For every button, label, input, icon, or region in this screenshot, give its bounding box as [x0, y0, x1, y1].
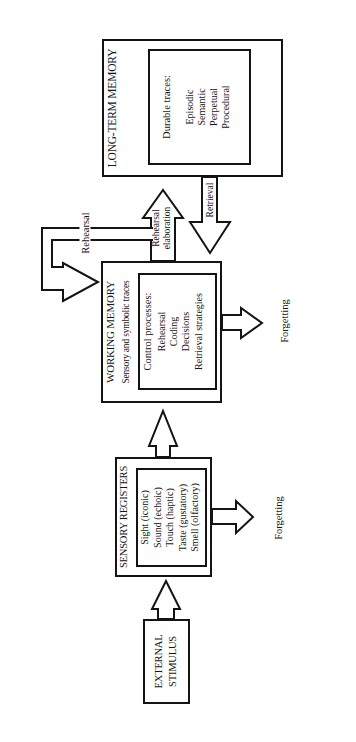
- list-item: Decisions: [180, 275, 192, 388]
- sensory-registers-title: SENSORY REGISTERS: [118, 457, 129, 577]
- working-memory-title: WORKING MEMORY: [104, 261, 116, 403]
- list-item: Perpetual: [208, 51, 220, 163]
- list-item: Semantic: [196, 51, 208, 163]
- rehearsal-elaboration-label-line2: elaboration: [162, 207, 173, 250]
- list-item: Episodic: [184, 51, 196, 163]
- durable-traces-heading: Durable traces:: [161, 51, 172, 163]
- list-item: Taste (gustatory): [177, 470, 190, 565]
- list-item: Procedural: [220, 51, 232, 163]
- working-memory-subtitle: Sensory and symbolic traces: [121, 261, 131, 403]
- rehearsal-elaboration-label-line1: Rehearsal: [151, 207, 162, 250]
- durable-traces-box: Durable traces: Episodic Semantic Perpet…: [148, 49, 251, 165]
- rehearsal-elaboration-label: Rehearsal elaboration: [151, 207, 173, 250]
- list-item: Retrieval strategies: [193, 275, 205, 388]
- list-item: Rehearsal: [156, 275, 168, 388]
- list-item: Smell (olfactory): [189, 470, 202, 565]
- sensory-to-working-arrow: [149, 411, 177, 457]
- sensory-registers-list: Sight (iconic) Sound (echoic) Touch (hap…: [139, 470, 202, 565]
- forgetting-label-working: Forgetting: [279, 299, 290, 343]
- external-stimulus-title-line2: STIMULUS: [166, 621, 180, 702]
- list-item: Sight (iconic): [139, 470, 152, 565]
- rehearsal-loop-label: Rehearsal: [80, 210, 91, 255]
- list-item: Coding: [168, 275, 180, 388]
- control-processes-box: Control processes: Rehearsal Coding Deci…: [138, 273, 217, 390]
- sensory-forgetting-arrow: [212, 501, 253, 533]
- retrieval-label: Retrieval: [205, 183, 216, 218]
- forgetting-label-sensory: Forgetting: [273, 496, 284, 540]
- external-stimulus-box: EXTERNAL STIMULUS: [143, 619, 190, 704]
- external-to-sensory-arrow: [152, 581, 180, 619]
- scanned-memory-model-figure: EXTERNAL STIMULUS SENSORY REGISTERS Sigh…: [0, 0, 356, 742]
- long-term-memory-title: LONG-TERM MEMORY: [106, 39, 118, 177]
- list-item: Touch (haptic): [164, 470, 177, 565]
- durable-traces-list: Episodic Semantic Perpetual Procedural: [184, 51, 232, 163]
- sensory-registers-inner-box: Sight (iconic) Sound (echoic) Touch (hap…: [136, 468, 207, 567]
- external-stimulus-title-line1: EXTERNAL: [152, 621, 166, 702]
- working-forgetting-arrow: [222, 308, 262, 338]
- diagram-stage: EXTERNAL STIMULUS SENSORY REGISTERS Sigh…: [0, 0, 356, 742]
- list-item: Sound (echoic): [152, 470, 165, 565]
- control-processes-heading: Control processes:: [142, 275, 153, 388]
- control-processes-list: Rehearsal Coding Decisions Retrieval str…: [156, 275, 205, 388]
